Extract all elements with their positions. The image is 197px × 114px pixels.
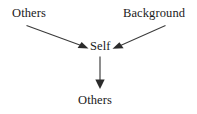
arrow-others-left-to-self <box>27 26 89 49</box>
arrowhead <box>95 80 104 89</box>
node-label-others-left: Others <box>12 7 46 20</box>
arrow-shaft <box>121 26 166 46</box>
node-label-others-bottom: Others <box>78 94 112 107</box>
arrow-self-to-others-bottom <box>95 57 104 90</box>
arrow-shaft <box>27 26 83 47</box>
node-label-background: Background <box>123 7 185 20</box>
node-label-self: Self <box>90 40 111 53</box>
diagram-canvas: Others Background Self Others <box>0 0 197 114</box>
arrow-background-to-self <box>113 26 166 49</box>
